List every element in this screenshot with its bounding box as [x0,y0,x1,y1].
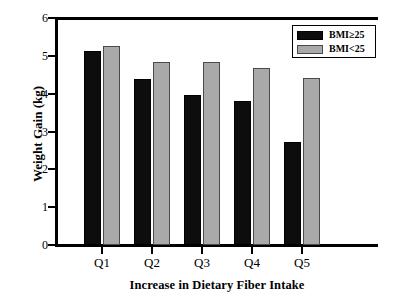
bar-q5-series2 [303,78,320,245]
y-tick-mark [48,244,55,246]
bar-q1-series1 [84,51,101,245]
y-tick-mark [48,168,55,170]
bar-q5-series1 [284,142,301,245]
legend-box: BMI≥25 BMI<25 [292,25,376,58]
legend-swatch-bmi-ge-25 [297,31,323,40]
y-axis-title: Weight Gain (kg) [30,34,46,234]
x-tick-mark [101,247,103,254]
y-tick-mark [48,131,55,133]
bar-q4-series2 [253,68,270,245]
legend-label-bmi-lt-25: BMI<25 [329,44,365,54]
x-tick-mark [201,247,203,254]
x-tick-label-q1: Q1 [82,255,122,271]
y-tick-mark [48,17,55,19]
y-tick-mark [48,93,55,95]
bar-q2-series1 [134,79,151,245]
legend-label-bmi-ge-25: BMI≥25 [329,30,365,40]
bar-q3-series1 [184,95,201,245]
x-tick-label-q3: Q3 [182,255,222,271]
bar-q2-series2 [153,62,170,245]
chart-figure: 0123456 Q1Q2Q3Q4Q5 Increase in Dietary F… [0,0,396,305]
x-axis-title: Increase in Dietary Fiber Intake [56,278,378,293]
x-tick-label-q4: Q4 [232,255,272,271]
bar-q1-series2 [103,46,120,245]
legend-item: BMI≥25 [297,29,371,41]
bar-q3-series2 [203,62,220,245]
x-tick-mark [301,247,303,254]
y-tick-label: 0 [26,245,48,257]
legend-item: BMI<25 [297,43,371,55]
x-tick-label-q2: Q2 [132,255,172,271]
y-tick-label: 6 [26,18,48,30]
x-tick-label-q5: Q5 [282,255,322,271]
x-tick-mark [151,247,153,254]
x-tick-mark [251,247,253,254]
legend-swatch-bmi-lt-25 [297,45,323,54]
y-tick-mark [48,206,55,208]
bar-q4-series1 [234,101,251,245]
y-tick-mark [48,55,55,57]
